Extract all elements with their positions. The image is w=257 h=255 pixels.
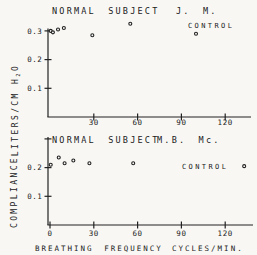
y-units-suffix: O — [11, 64, 20, 71]
top-panel-title: NORMAL SUBJECT — [52, 6, 159, 16]
x-tick-label: 60 — [132, 229, 142, 238]
x-tick-label: 120 — [218, 229, 233, 238]
data-point — [88, 162, 91, 165]
x-tick-label: 30 — [89, 118, 99, 127]
y-tick-label: 0.2 — [27, 163, 42, 172]
top-panel: NORMAL SUBJECT J. M. CONTROL 0.10.20.330… — [27, 6, 251, 127]
y-tick-label: 0.1 — [27, 192, 42, 201]
y-axis-label: COMPLIANCE — [10, 156, 19, 228]
bottom-control-label: CONTROL — [182, 163, 228, 171]
x-axis-label: BREATHING FREQUENCY — [35, 244, 163, 253]
control-data-point — [195, 32, 198, 35]
data-point — [129, 22, 132, 25]
data-point — [132, 162, 135, 165]
x-tick-label: 60 — [132, 118, 142, 127]
data-point — [57, 28, 60, 31]
data-point — [91, 34, 94, 37]
control-data-point — [243, 165, 246, 168]
y-axis-units-label: LITERS/CM H2O — [11, 64, 21, 156]
data-point — [63, 162, 66, 165]
data-point — [57, 156, 60, 159]
x-tick-label: 0 — [47, 229, 52, 238]
bottom-axis-ticks: 0.10.20306090120 — [27, 139, 233, 238]
data-point — [49, 163, 52, 166]
top-panel-subject-id: J. M. — [176, 6, 218, 16]
y-tick-label: 0.3 — [27, 27, 42, 36]
x-tick-label: 120 — [218, 118, 233, 127]
y-units-prefix: LITERS/CM H — [11, 77, 20, 156]
data-point — [51, 31, 54, 34]
top-axis-ticks: 0.10.20.3306090120 — [27, 27, 233, 127]
data-point — [62, 27, 65, 30]
top-control-label: CONTROL — [188, 22, 234, 30]
y-tick-label: 0.1 — [27, 84, 42, 93]
bottom-panel: NORMAL SUBJECT M.B. Mc. CONTROL 0.10.203… — [27, 135, 253, 239]
top-data-points — [49, 22, 197, 36]
x-axis-units-label: CYCLES/MIN. — [172, 244, 244, 253]
y-tick-label: 0.2 — [27, 55, 42, 64]
compliance-figure: NORMAL SUBJECT J. M. CONTROL 0.10.20.330… — [0, 0, 257, 255]
figure-svg: NORMAL SUBJECT J. M. CONTROL 0.10.20.330… — [0, 0, 257, 255]
x-tick-label: 90 — [176, 229, 186, 238]
bottom-panel-subject-id: M.B. Mc. — [157, 135, 221, 145]
bottom-panel-title: NORMAL SUBJECT — [52, 135, 159, 145]
x-tick-label: 30 — [89, 229, 99, 238]
data-point — [72, 159, 75, 162]
x-tick-label: 90 — [176, 118, 186, 127]
